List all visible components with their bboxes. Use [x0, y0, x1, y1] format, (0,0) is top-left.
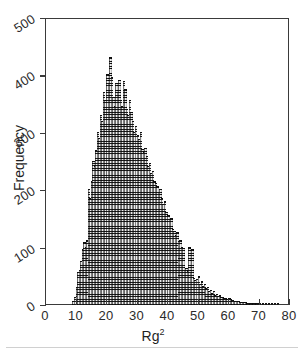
- x-axis-tick-label: 50: [183, 308, 213, 323]
- x-axis-tick: [137, 299, 138, 305]
- y-axis-tick-label: 500: [1, 11, 38, 42]
- x-axis-tick-label: 40: [152, 308, 182, 323]
- x-axis-tick-label: 60: [213, 308, 243, 323]
- x-axis-tick-label: 70: [244, 308, 274, 323]
- chart-figure: 010203040506070800100200300400500 Rg2 Fr…: [0, 0, 306, 353]
- y-axis-tick-label: 400: [1, 69, 38, 100]
- histogram-bar: [277, 303, 280, 305]
- y-axis-tick: [40, 133, 46, 134]
- x-axis-tick: [76, 299, 77, 305]
- x-axis-tick-label: 80: [274, 308, 304, 323]
- y-axis-label: Frequency: [11, 103, 27, 213]
- x-axis-tick: [106, 299, 107, 305]
- x-axis-tick-label: 30: [122, 308, 152, 323]
- x-axis-tick: [289, 299, 290, 305]
- y-axis-tick: [40, 248, 46, 249]
- x-axis-tick: [198, 299, 199, 305]
- y-axis-tick: [40, 190, 46, 191]
- x-axis-tick-label: 20: [91, 308, 121, 323]
- y-axis-tick-label: 100: [1, 241, 38, 272]
- x-axis-tick: [167, 299, 168, 305]
- histogram-bars: [45, 18, 289, 305]
- scan-artifact-line: [6, 347, 298, 348]
- x-axis-tick: [259, 299, 260, 305]
- x-axis-tick-label: 10: [61, 308, 91, 323]
- x-axis-tick: [228, 299, 229, 305]
- y-axis-tick: [40, 18, 46, 19]
- x-axis-label: Rg2: [0, 327, 306, 344]
- y-axis-tick: [40, 75, 46, 76]
- y-axis-tick: [40, 305, 46, 306]
- y-axis-tick-label: 0: [1, 298, 38, 329]
